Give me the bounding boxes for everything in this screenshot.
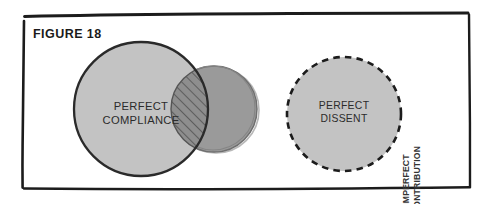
perfect-compliance-label-line2: COMPLIANCE (103, 114, 180, 126)
figure-number-label: FIGURE 18 (33, 28, 102, 41)
figure-container: FIGURE 18 PERFECT COMPLIANCE IMPERFECT C… (0, 0, 493, 204)
perfect-dissent-label: PERFECT DISSENT (294, 99, 394, 126)
imperfect-contribution-label-line2: CONTRIBUTION (412, 142, 423, 204)
imperfect-contribution-label: IMPERFECT CONTRIBUTION (401, 142, 415, 204)
perfect-dissent-label-line2: DISSENT (320, 113, 367, 124)
perfect-dissent-label-line1: PERFECT (319, 100, 370, 111)
perfect-compliance-label: PERFECT COMPLIANCE (86, 99, 196, 128)
imperfect-contribution-label-line1: IMPERFECT (401, 142, 412, 204)
perfect-compliance-label-line1: PERFECT (114, 100, 168, 112)
